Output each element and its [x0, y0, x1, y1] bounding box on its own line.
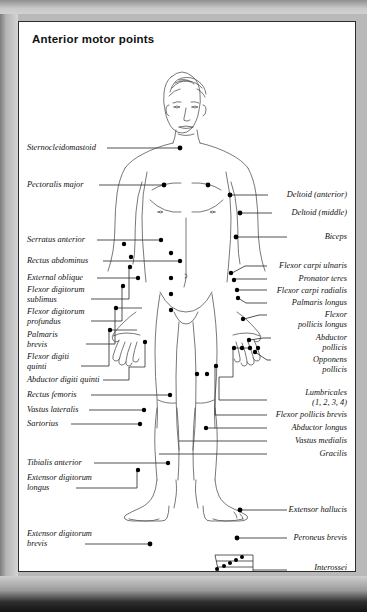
- label-flexor-pollicis-longus: Flexor pollicis longus: [298, 310, 347, 329]
- label-sternocleidomastoid: Sternocleidomastoid: [27, 143, 96, 153]
- label-deltoid-anterior: Deltoid (anterior): [287, 190, 347, 200]
- label-opponens-pollicis: Opponens pollicis: [313, 355, 347, 374]
- label-flexor-digitorum-sublimus: Flexor digitorum sublimus: [27, 285, 84, 304]
- interossei-bracket: [215, 555, 253, 572]
- label-extensor-digitorum-longus: Extensor digitorum longus: [27, 473, 92, 492]
- label-vastus-medialis: Vastus medialis: [295, 436, 347, 446]
- label-lumbricales: Lumbricales (1, 2, 3, 4): [305, 388, 347, 407]
- label-flexor-digitorum-profundus: Flexor digitorum profundus: [27, 307, 84, 326]
- label-interossei: Interossei (1, 2, 3, 4, 5): [304, 563, 347, 572]
- label-rectus-femoris: Rectus femoris: [27, 390, 77, 400]
- label-vastus-lateralis: Vastus lateralis: [27, 405, 78, 415]
- label-palmaris-brevis: Palmaris brevis: [27, 330, 58, 349]
- page-backdrop-top: [0, 0, 367, 14]
- label-rectus-abdominus: Rectus abdominus: [27, 256, 88, 266]
- label-abductor-longus: Abductor longus: [291, 423, 347, 433]
- label-abductor-pollicis: Abductor pollicis: [316, 333, 347, 352]
- label-flexor-carpi-ulnaris: Flexor carpi ulnaris: [279, 261, 347, 271]
- label-extensor-digitorum-brevis: Extensor digitorum brevis: [27, 529, 92, 548]
- lumbricales-bracket: [219, 348, 251, 377]
- motor-point-markers: [108, 146, 260, 571]
- label-pectoralis-major: Pectoralis major: [27, 180, 84, 190]
- label-flexor-pollicis-brevis: Flexor pollicis brevis: [276, 410, 347, 420]
- label-extensor-hallucis: Extensor hallucis: [289, 505, 347, 515]
- page-gutter-left: [0, 14, 18, 576]
- label-external-oblique: External oblique: [27, 273, 83, 283]
- label-gracilis: Gracilis: [320, 449, 347, 459]
- label-palmaris-longus: Palmaris longus: [292, 298, 347, 308]
- screenshot-root: Anterior motor points: [0, 0, 367, 612]
- label-flexor-digiti-quinti: Flexor digiti quinti: [27, 352, 69, 371]
- label-sartorius: Sartorius: [27, 419, 58, 429]
- label-tibialis-anterior: Tibialis anterior: [27, 458, 82, 468]
- label-pronator-teres: Pronator teres: [299, 274, 347, 284]
- label-peroneus-brevis: Peroneus brevis: [293, 533, 347, 543]
- label-abductor-digiti-quinti: Abductor digiti quinti: [27, 375, 100, 385]
- figure-card: Anterior motor points: [18, 21, 356, 572]
- label-flexor-carpi-radialis: Flexor carpi radialis: [277, 286, 347, 296]
- label-serratus-anterior: Serratus anterior: [27, 235, 85, 245]
- label-biceps: Biceps: [325, 232, 347, 242]
- page-backdrop-bottom: [0, 576, 367, 612]
- leader-lines: [71, 148, 287, 570]
- label-deltoid-middle: Deltoid (middle): [291, 208, 347, 218]
- left-hand-brackets: [109, 308, 145, 367]
